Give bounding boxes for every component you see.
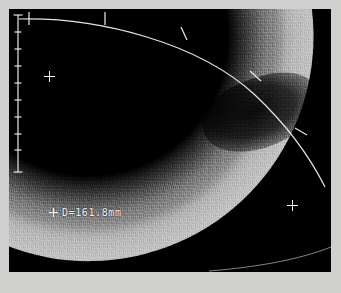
ultrasound-screenshot: D=161.8mm: [0, 0, 341, 293]
caliper-point-2[interactable]: [287, 200, 298, 211]
caliper-cross-icon: [49, 208, 58, 217]
tissue-boundary-arc: [19, 12, 325, 187]
measurement-readout[interactable]: D=161.8mm: [49, 207, 122, 218]
measurement-label-text: D=161.8mm: [62, 207, 122, 218]
depth-scale: [14, 15, 23, 172]
arc-tick: [295, 128, 307, 135]
scan-viewport[interactable]: D=161.8mm: [9, 9, 331, 272]
arc-tick: [181, 27, 187, 40]
scan-overlay-graphics: [9, 9, 331, 272]
lower-boundary-arc: [209, 247, 331, 271]
caliper-point-1[interactable]: [44, 71, 55, 82]
arc-tick: [250, 71, 261, 81]
